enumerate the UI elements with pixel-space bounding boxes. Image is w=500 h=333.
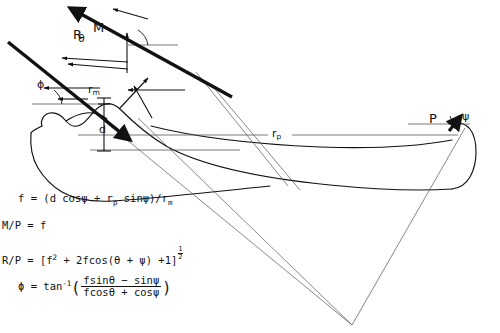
eq4-fn: tan: [43, 280, 62, 292]
label-P: P: [429, 112, 437, 125]
theta-arc: [138, 30, 148, 45]
label-M: M: [93, 21, 104, 34]
eq4-fn-sup: -1: [62, 279, 71, 288]
label-r-p: rp: [272, 128, 281, 141]
annotation-arrows: [44, 9, 185, 118]
eq1-rhs-open: (d cos: [43, 192, 81, 204]
equation-f: f = (d cosψ + rp sinψ)/rm: [18, 193, 173, 207]
eq4-lhs: ϕ: [18, 280, 24, 292]
equation-r-over-p: R/P = [f2 + 2fcos(θ + ψ) +1] 1 2: [2, 246, 183, 265]
eq3-tail: ) +1]: [146, 254, 178, 266]
eq3-lhs: R/P: [2, 254, 21, 266]
eq3-exp-den: 2: [178, 254, 182, 261]
label-r-m: rm: [88, 84, 100, 97]
eq3-eq: =: [27, 254, 33, 266]
eq4-fraction: fsinθ − sinψ fcosθ + cosψ: [81, 275, 161, 298]
label-r-p-sub: p: [277, 132, 282, 141]
eq1-lhs: f: [18, 192, 24, 204]
eq1-rm-sub: m: [168, 198, 173, 207]
label-d: d: [99, 124, 106, 135]
arrow-left-lower: [68, 64, 128, 69]
equation-phi: ϕ = tan-1( fsinθ − sinψ fcosθ + cosψ ): [18, 275, 171, 298]
eq3-mid: + 2fcos(: [63, 254, 114, 266]
phi-arc: [54, 90, 62, 104]
eq3-open: [f: [40, 254, 53, 266]
construction-line-3: [352, 128, 465, 325]
label-r-m-sub: m: [93, 88, 100, 97]
force-vector-R: [8, 42, 130, 140]
equation-m-over-p: M/P = f: [2, 220, 46, 231]
eq4-paren-close: ): [162, 279, 171, 297]
psi-arc: [450, 116, 452, 124]
label-psi: ψ: [462, 111, 469, 122]
label-theta: θ: [78, 33, 85, 44]
angle-arcs: [54, 30, 452, 124]
eq1-rp-sub: p: [113, 198, 118, 207]
arrow-top-upleft: [113, 9, 148, 19]
eq3-theta: θ: [114, 254, 120, 266]
eq2-eq: =: [27, 219, 33, 231]
eq4-denominator: fcosθ + cosψ: [81, 287, 161, 298]
eq4-eq: =: [31, 280, 37, 292]
eq2-rhs: f: [40, 219, 46, 231]
eq1-plus: +: [94, 192, 100, 204]
eq3-exponent-half: 1 2: [178, 246, 182, 261]
eq2-lhs: M/P: [2, 219, 21, 231]
eq3-sup2: 2: [53, 253, 58, 262]
eq1-eq: =: [31, 192, 37, 204]
arrow-rm-leader-b: [134, 86, 152, 118]
eq1-psi1: ψ: [81, 192, 87, 204]
label-phi: ϕ: [37, 79, 44, 90]
eq1-close: )/r: [149, 192, 168, 204]
arrow-left-upper: [62, 58, 128, 62]
figure-canvas: R M P θ ϕ ψ rm rp d f = (d cosψ + rp sin…: [0, 0, 500, 333]
eq1-sin: sin: [124, 192, 143, 204]
bone-outline: [31, 104, 476, 201]
eq3-plus: +: [127, 254, 133, 266]
eq4-paren-open: (: [71, 279, 80, 297]
